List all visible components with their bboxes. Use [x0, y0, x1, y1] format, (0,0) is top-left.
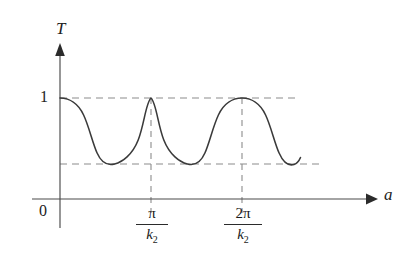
fraction-numerator: π [136, 206, 168, 223]
figure-canvas: T a 0 1 π k2 2π k2 [0, 0, 410, 263]
x-axis-label: a [384, 186, 393, 203]
x-tick-label-2pi-over-k2: 2π k2 [224, 206, 262, 245]
denominator-subscript: 2 [153, 234, 158, 245]
denominator-base: k [237, 226, 244, 242]
fraction-numerator: 2π [224, 206, 262, 223]
x-tick-label-pi-over-k2: π k2 [136, 206, 168, 245]
denominator-base: k [146, 226, 153, 242]
origin-label: 0 [39, 203, 47, 219]
plot-svg [0, 0, 410, 263]
fraction-denominator: k2 [136, 226, 168, 246]
x-axis-arrowhead [366, 194, 378, 205]
fraction-denominator: k2 [224, 226, 262, 246]
y-tick-label-one: 1 [40, 89, 48, 105]
denominator-subscript: 2 [244, 234, 249, 245]
fraction-bar [224, 224, 262, 225]
y-axis-arrowhead [55, 43, 65, 56]
fraction-bar [136, 224, 168, 225]
transmission-curve [60, 98, 301, 165]
y-axis-label: T [56, 20, 65, 37]
